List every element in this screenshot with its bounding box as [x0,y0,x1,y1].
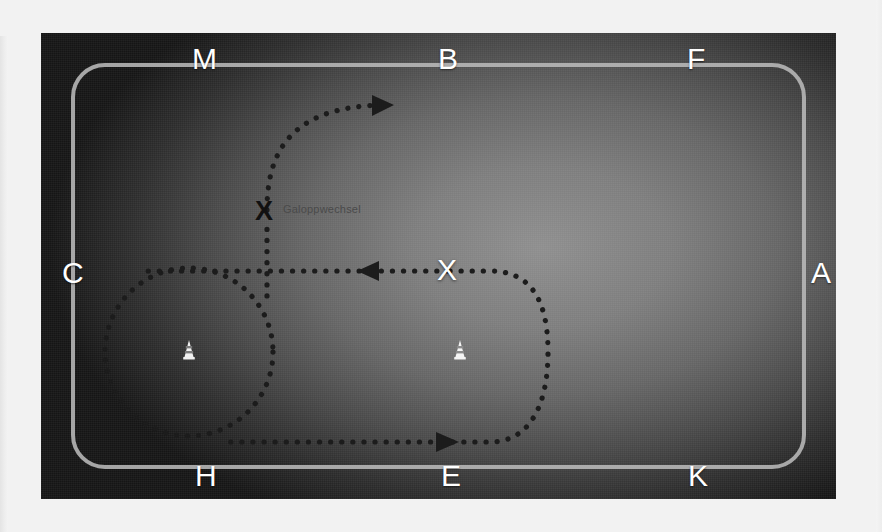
arena-letter-h: H [195,461,217,491]
arena-letter-a: A [811,258,832,288]
arena-letter-c: C [62,258,84,288]
page-edge-left-decoration [0,36,8,532]
arena-letter-b: B [438,44,459,74]
arena-letter-f: F [687,44,706,74]
dressage-arena-diagram: M B F C A H E K X X Galoppwechsel [0,0,882,532]
arena-letter-e: E [441,461,462,491]
cone-icon-left [181,339,197,361]
arena-letter-k: K [688,461,709,491]
canter-change-label: Galoppwechsel [283,204,361,215]
canter-change-marker: X [255,198,273,225]
arena-letter-m: M [192,44,218,74]
arena-center-point: X [437,255,457,285]
cone-icon-right [452,339,468,361]
page-edge-right-decoration [876,0,882,532]
